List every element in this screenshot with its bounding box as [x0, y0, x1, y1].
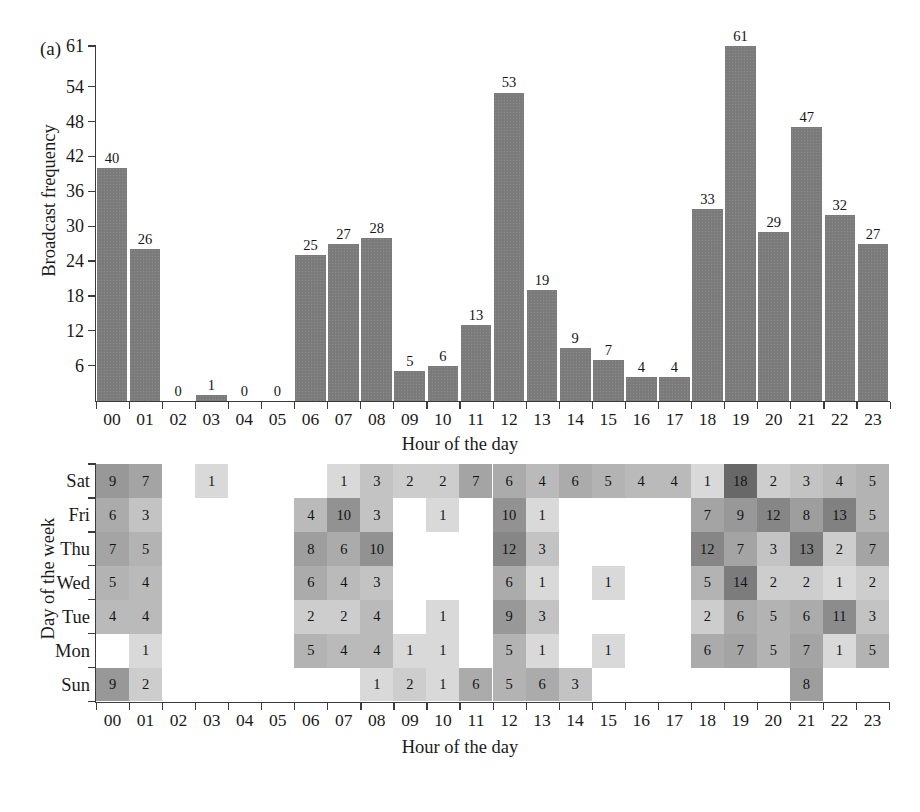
- x-tick-label: 03: [195, 411, 228, 429]
- heatmap-cell: 6: [691, 634, 724, 668]
- x-tick-label: 21: [790, 712, 823, 730]
- heatmap-cell: 1: [526, 566, 559, 600]
- x-tick-label: 00: [96, 411, 129, 429]
- x-tick-mark: [393, 402, 394, 409]
- x-tick-mark: [658, 703, 659, 710]
- heatmap-cell: 6: [790, 600, 823, 634]
- bar-value-label: 26: [129, 232, 162, 247]
- x-tick-mark: [162, 703, 163, 710]
- x-tick-label: 00: [96, 712, 129, 730]
- heatmap-cell: 12: [757, 498, 790, 532]
- x-tick-label: 16: [625, 411, 658, 429]
- x-tick-mark: [856, 703, 857, 710]
- x-tick-label: 08: [360, 712, 393, 730]
- panel-b-grid: 9711322764654411823456341031101791281357…: [96, 464, 889, 702]
- heatmap-cell: 2: [757, 464, 790, 498]
- bar: [825, 215, 856, 401]
- heatmap-cell: 2: [426, 464, 459, 498]
- bar: [130, 249, 161, 400]
- heatmap-cell: 1: [426, 498, 459, 532]
- heatmap-cell: 3: [790, 464, 823, 498]
- x-tick-mark: [493, 402, 494, 409]
- heatmap-cell: 3: [757, 532, 790, 566]
- heatmap-cell: 9: [493, 600, 526, 634]
- bar-value-label: 25: [294, 238, 327, 253]
- bar-value-label: 13: [459, 308, 492, 323]
- heatmap-cell: 13: [790, 532, 823, 566]
- bar-value-label: 7: [592, 343, 625, 358]
- x-tick-label: 17: [658, 411, 691, 429]
- y-tick-label: 36: [44, 182, 84, 200]
- x-tick-mark: [890, 402, 891, 409]
- heatmap-cell: 8: [790, 498, 823, 532]
- x-tick-mark: [426, 703, 427, 710]
- heatmap-cell: 5: [493, 634, 526, 668]
- bar: [494, 93, 525, 401]
- heatmap-cell: 1: [823, 566, 856, 600]
- x-tick-mark: [96, 402, 97, 409]
- heatmap-cell: 12: [691, 532, 724, 566]
- heatmap-cell: 2: [790, 566, 823, 600]
- heatmap-cell: 3: [129, 498, 162, 532]
- x-tick-mark: [856, 402, 857, 409]
- heatmap-cell: 2: [393, 668, 426, 702]
- bar: [394, 371, 425, 400]
- heatmap-cell: 1: [526, 498, 559, 532]
- x-tick-label: 23: [856, 411, 889, 429]
- x-tick-label: 05: [261, 411, 294, 429]
- heatmap-cell: 5: [493, 668, 526, 702]
- row-label-fri: Fri: [0, 506, 90, 525]
- x-tick-mark: [790, 703, 791, 710]
- x-tick-mark: [757, 703, 758, 710]
- bar: [428, 366, 459, 401]
- x-tick-label: 09: [393, 411, 426, 429]
- bar: [295, 255, 326, 400]
- row-label-mon: Mon: [0, 642, 90, 661]
- heatmap-cell: 7: [459, 464, 492, 498]
- x-tick-mark: [261, 703, 262, 710]
- x-tick-label: 04: [228, 712, 261, 730]
- bar-value-label: 1: [195, 378, 228, 393]
- bar-value-label: 53: [493, 75, 526, 90]
- x-tick-mark: [592, 402, 593, 409]
- panel-b-heatmap: (b) Day of the week SatFriThuWedTueMonSu…: [0, 440, 920, 812]
- heatmap-cell: 11: [823, 600, 856, 634]
- heatmap-cell: 5: [691, 566, 724, 600]
- bar-value-label: 0: [162, 384, 195, 399]
- x-tick-mark: [294, 402, 295, 409]
- heatmap-cell: 4: [129, 600, 162, 634]
- heatmap-cell: 3: [856, 600, 889, 634]
- x-tick-label: 07: [327, 411, 360, 429]
- heatmap-cell: 10: [360, 532, 393, 566]
- bar: [361, 238, 392, 401]
- heatmap-cell: 2: [823, 532, 856, 566]
- heatmap-cell: 9: [96, 464, 129, 498]
- heatmap-cell: 7: [724, 532, 757, 566]
- heatmap-cell: 1: [426, 634, 459, 668]
- heatmap-cell: 6: [96, 498, 129, 532]
- x-tick-mark: [459, 703, 460, 710]
- x-tick-label: 11: [459, 411, 492, 429]
- row-label-tue: Tue: [0, 608, 90, 627]
- heatmap-cell: 4: [96, 600, 129, 634]
- heatmap-cell: 7: [129, 464, 162, 498]
- x-tick-mark: [228, 703, 229, 710]
- x-tick-label: 20: [757, 411, 790, 429]
- heatmap-cell: 5: [294, 634, 327, 668]
- heatmap-cell: 6: [493, 566, 526, 600]
- heatmap-cell: 4: [360, 600, 393, 634]
- heatmap-cell: 4: [327, 634, 360, 668]
- x-tick-label: 23: [856, 712, 889, 730]
- panel-a-bar-chart: (a) Broadcast frequency 6121824303642485…: [0, 0, 920, 440]
- bar-value-label: 47: [790, 110, 823, 125]
- y-tick-mark: [88, 701, 96, 702]
- heatmap-cell: 5: [856, 634, 889, 668]
- x-tick-label: 06: [294, 411, 327, 429]
- bar-value-label: 0: [228, 384, 261, 399]
- x-tick-label: 07: [327, 712, 360, 730]
- x-tick-label: 21: [790, 411, 823, 429]
- x-tick-mark: [129, 402, 130, 409]
- bar-value-label: 19: [526, 273, 559, 288]
- heatmap-cell: 1: [426, 668, 459, 702]
- row-label-wed: Wed: [0, 574, 90, 593]
